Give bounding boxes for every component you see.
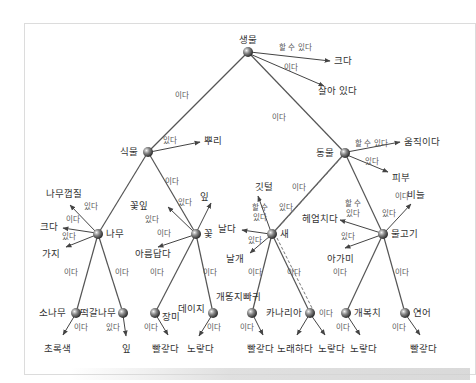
rel-has-wings: 있다 bbox=[248, 236, 262, 245]
rel-has-roots: 있다 bbox=[163, 136, 177, 145]
rel-has-leaf: 있다 bbox=[178, 198, 192, 207]
prop-alive: 살아 있다 bbox=[318, 85, 357, 96]
prop-green: 초록색 bbox=[44, 343, 71, 354]
prop-wings: 날개 bbox=[226, 253, 244, 264]
edge-tree-pine bbox=[76, 234, 98, 313]
node-tree bbox=[93, 229, 103, 239]
prop-branches: 가지 bbox=[42, 248, 60, 259]
prop-yellow-canary: 노랗다 bbox=[318, 343, 345, 354]
highlight-path bbox=[268, 158, 341, 314]
prop-big: 크다 bbox=[334, 55, 352, 66]
rel-can-move: 할 수 있다 bbox=[355, 139, 388, 148]
rel-isa-fish: 이다 bbox=[395, 191, 409, 201]
node-salmon bbox=[400, 308, 410, 318]
rel-isa-plant: 이다 bbox=[175, 90, 189, 100]
rel-has-feathers: 있다 bbox=[279, 203, 293, 212]
node-canary bbox=[305, 308, 315, 318]
prop-roots: 뿌리 bbox=[204, 135, 222, 146]
rel-has-gills: 있다 bbox=[341, 232, 355, 241]
node-root bbox=[243, 47, 253, 57]
rel-isa-yellow-sunfish: 이다 bbox=[336, 322, 350, 332]
label-animal: 동물 bbox=[316, 147, 334, 158]
rel-isa-oak: 이다 bbox=[115, 267, 129, 277]
rel-isa-rose: 이다 bbox=[150, 267, 164, 277]
prop-bark: 나무껍질 bbox=[46, 188, 82, 199]
label-canary: 카나리아 bbox=[266, 307, 302, 318]
node-fish bbox=[378, 229, 388, 239]
prop-swim: 헤엄치다 bbox=[302, 213, 338, 224]
node-robin bbox=[247, 308, 257, 318]
prop-red-rose: 빨갛다 bbox=[152, 343, 179, 354]
label-oak: 떡갈나무 bbox=[80, 307, 116, 318]
label-fish: 물고기 bbox=[391, 228, 418, 239]
prop-pretty: 아름답다 bbox=[135, 248, 171, 259]
rel-can-swim-1: 할 수 bbox=[345, 199, 361, 208]
rel-has-skin: 있다 bbox=[365, 157, 379, 166]
rel-isa-red-rose: 이다 bbox=[144, 322, 158, 332]
prop-gills: 아가미 bbox=[327, 253, 354, 264]
prop-yellow-sunfish: 노랗다 bbox=[350, 343, 377, 354]
label-root: 생물 bbox=[239, 34, 257, 45]
rel-can-fly-1: 할 수 bbox=[252, 203, 268, 212]
label-tree: 나무 bbox=[106, 228, 124, 239]
prop-yellow-daisy: 노랗다 bbox=[187, 343, 214, 354]
prop-sing: 노래하다 bbox=[277, 343, 313, 354]
node-flower bbox=[191, 229, 201, 239]
node-animal bbox=[340, 148, 350, 158]
rel-isa-robin: 이다 bbox=[248, 267, 262, 277]
rel-can-swim-2: 있다 bbox=[346, 209, 360, 218]
prop-leaf: 잎 bbox=[200, 191, 209, 202]
node-sunfish bbox=[341, 308, 351, 318]
prop-red-salmon: 빨갛다 bbox=[410, 343, 437, 354]
rel-isa-yellow-daisy: 이다 bbox=[207, 322, 221, 332]
prop-skin: 피부 bbox=[392, 172, 410, 183]
rel-has-leaves: 있다 bbox=[106, 323, 120, 332]
rel-isa-sunfish: 이다 bbox=[333, 267, 347, 277]
prop-petals: 꽃잎 bbox=[130, 200, 148, 211]
node-plant bbox=[143, 147, 153, 157]
rel-isa-flower: 이다 bbox=[165, 176, 179, 186]
rel-isa-pretty: 이다 bbox=[157, 228, 171, 238]
label-pine: 소나무 bbox=[39, 307, 66, 318]
node-oak bbox=[118, 308, 128, 318]
rel-isa-pine: 이다 bbox=[64, 267, 78, 277]
rel-isa-canary-props: 이다 bbox=[319, 308, 333, 318]
prop-red-robin: 빨갛다 bbox=[247, 343, 274, 354]
rel-can-fly-2: 있다 bbox=[253, 213, 267, 222]
rel-isa-red-robin: 이다 bbox=[240, 322, 254, 332]
label-flower: 꽃 bbox=[204, 228, 213, 239]
rel-has-scales: 있다 bbox=[382, 209, 396, 218]
prop-leaves-oak: 잎 bbox=[122, 343, 131, 354]
label-bird: 새 bbox=[280, 228, 289, 239]
rel-isa-salmon: 이다 bbox=[395, 267, 409, 277]
rel-isa-daisy: 이다 bbox=[203, 267, 217, 277]
label-robin: 개똥지빠귀 bbox=[216, 291, 261, 302]
prop-feathers: 깃털 bbox=[255, 181, 273, 192]
label-plant: 식물 bbox=[120, 146, 138, 157]
rel-isa-bird: 이다 bbox=[292, 182, 306, 192]
rel-has-branches: 있다 bbox=[62, 232, 76, 241]
rel-has-petals: 있다 bbox=[145, 215, 159, 224]
rel-isa-alive: 이다 bbox=[284, 62, 298, 72]
node-daisy bbox=[208, 308, 218, 318]
prop-scales: 비늘 bbox=[407, 189, 425, 200]
label-sunfish: 개복치 bbox=[354, 307, 381, 318]
node-labels: 생물 식물 동물 나무 꽃 새 물고기 소나무 떡갈나무 장미 데이지 개똥지빠… bbox=[39, 34, 431, 322]
prop-move: 움직이다 bbox=[404, 136, 440, 147]
rel-can-root: 할 수 있다 bbox=[279, 43, 312, 52]
prop-big-tree: 크다 bbox=[40, 221, 58, 232]
rel-isa-canary: 이다 bbox=[287, 267, 301, 277]
prop-fly: 날다 bbox=[218, 223, 236, 234]
rel-isa-animal: 이다 bbox=[272, 112, 286, 122]
rel-has-bark: 있다 bbox=[84, 202, 98, 211]
node-bird bbox=[267, 229, 277, 239]
node-rose bbox=[150, 308, 160, 318]
rel-isa-green: 이다 bbox=[74, 322, 88, 332]
label-salmon: 연어 bbox=[413, 307, 431, 318]
label-daisy: 데이지 bbox=[178, 303, 205, 314]
rel-isa-red-salmon: 이다 bbox=[392, 322, 406, 332]
rel-isa-big: 이다 bbox=[66, 214, 80, 224]
edge-plant-tree bbox=[98, 152, 148, 234]
